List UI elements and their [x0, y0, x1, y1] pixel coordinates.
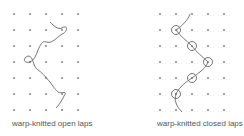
grid-dot — [29, 29, 31, 31]
grid-dot — [61, 93, 63, 95]
grid-dot — [207, 29, 209, 31]
grid-dot — [45, 45, 47, 47]
grid-dot — [77, 77, 79, 79]
grid-dot — [45, 29, 47, 31]
grid-dot — [13, 109, 15, 111]
open-lap-yarn-path — [24, 22, 66, 108]
grid-dot — [223, 109, 225, 111]
grid-dot — [207, 93, 209, 95]
grid-dot — [61, 45, 63, 47]
grid-dot — [45, 109, 47, 111]
grid-dot — [29, 109, 31, 111]
grid-dot — [159, 45, 161, 47]
grid-dot — [159, 77, 161, 79]
grid-dot — [13, 45, 15, 47]
grid-dot — [13, 93, 15, 95]
grid-dot — [223, 13, 225, 15]
grid-dot — [159, 13, 161, 15]
grid-dot — [191, 29, 193, 31]
grid-dot — [191, 61, 193, 63]
grid-dot — [13, 77, 15, 79]
grid-dot — [45, 61, 47, 63]
grid-dot — [159, 109, 161, 111]
grid-dot — [77, 109, 79, 111]
grid-dot — [61, 77, 63, 79]
grid-dot — [223, 29, 225, 31]
closed-laps-dot-grid — [159, 13, 225, 111]
grid-dot — [207, 45, 209, 47]
caption-closed-laps: warp-knitted closed laps — [157, 119, 243, 128]
grid-dot — [223, 45, 225, 47]
grid-dot — [29, 13, 31, 15]
grid-dot — [77, 93, 79, 95]
grid-dot — [207, 13, 209, 15]
grid-dot — [175, 13, 177, 15]
grid-dot — [191, 13, 193, 15]
grid-dot — [13, 61, 15, 63]
grid-dot — [77, 45, 79, 47]
grid-dot — [45, 13, 47, 15]
grid-dot — [29, 77, 31, 79]
grid-dot — [29, 93, 31, 95]
grid-dot — [77, 13, 79, 15]
grid-dot — [61, 13, 63, 15]
caption-open-laps: warp-knitted open laps — [12, 119, 93, 128]
grid-dot — [77, 61, 79, 63]
grid-dot — [223, 93, 225, 95]
grid-dot — [159, 93, 161, 95]
grid-dot — [61, 61, 63, 63]
grid-dot — [175, 109, 177, 111]
lap-diagram — [0, 0, 244, 136]
open-laps-dot-grid — [13, 13, 79, 111]
grid-dot — [175, 77, 177, 79]
grid-dot — [61, 109, 63, 111]
grid-dot — [207, 77, 209, 79]
grid-dot — [61, 29, 63, 31]
grid-dot — [175, 61, 177, 63]
grid-dot — [159, 61, 161, 63]
grid-dot — [77, 29, 79, 31]
grid-dot — [223, 77, 225, 79]
grid-dot — [13, 29, 15, 31]
grid-dot — [175, 45, 177, 47]
grid-dot — [191, 93, 193, 95]
grid-dot — [159, 29, 161, 31]
grid-dot — [223, 61, 225, 63]
grid-dot — [29, 45, 31, 47]
grid-dot — [45, 93, 47, 95]
grid-dot — [13, 13, 15, 15]
grid-dot — [191, 109, 193, 111]
grid-dot — [207, 109, 209, 111]
